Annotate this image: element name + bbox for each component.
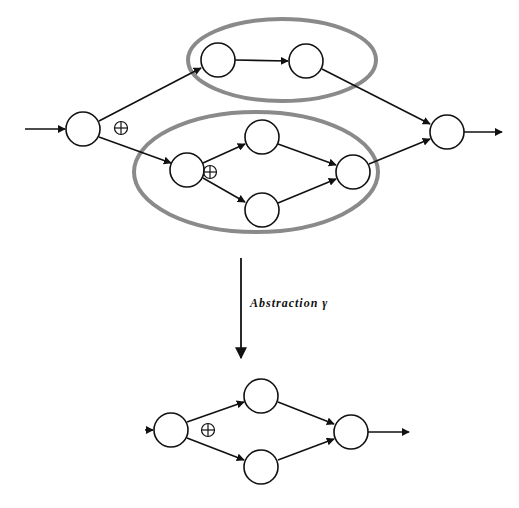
oplus-icon: [115, 122, 128, 135]
edge-n1-n2: [235, 60, 288, 61]
before-nodes: [66, 43, 464, 227]
edge-b1-b3: [278, 402, 334, 424]
node-n7: [430, 115, 464, 149]
oplus-icon: [204, 166, 217, 179]
edge-n2-n7: [322, 69, 430, 124]
edge-n5-n6: [278, 179, 336, 203]
edge-b0-b2: [187, 438, 244, 460]
oplus-icon: [202, 424, 215, 437]
edge-n6-n7: [369, 139, 430, 164]
after-nodes: [154, 379, 368, 484]
workflow-abstraction-diagram: [0, 0, 519, 508]
edge-n4-n6: [278, 144, 336, 165]
edge-b0-b1: [187, 402, 244, 422]
node-n2: [289, 44, 323, 78]
node-n4: [245, 120, 279, 154]
node-n1: [201, 43, 235, 77]
edge-n0-n1: [99, 68, 201, 121]
edge-n3-n4: [203, 144, 245, 163]
abstraction-label: Abstraction γ: [250, 296, 328, 311]
node-b1: [244, 379, 278, 413]
node-b0: [154, 413, 188, 447]
node-n5: [245, 193, 279, 227]
node-n3: [170, 153, 204, 187]
node-n6: [336, 155, 370, 189]
node-n0: [66, 112, 100, 146]
node-b3: [334, 415, 368, 449]
edge-n3-n5: [203, 178, 245, 202]
node-b2: [244, 450, 278, 484]
edge-b2-b3: [278, 439, 334, 460]
